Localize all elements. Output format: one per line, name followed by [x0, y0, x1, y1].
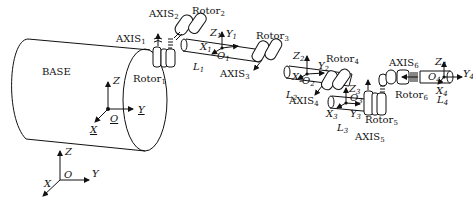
- axis-2-label: AXIS2: [148, 8, 179, 21]
- rotor-1-joint: [153, 34, 175, 67]
- frame-1-y: Y1: [226, 28, 237, 41]
- rotor-4-label: Rotor4: [326, 53, 359, 66]
- frame-4-z: Z4: [434, 56, 446, 69]
- robot-arm-diagram: BASE Z Y O X Z O Y X: [0, 0, 473, 204]
- world-frame-z: Z: [64, 146, 73, 157]
- rotor-3: [250, 37, 284, 70]
- rotor-1-label: Rotor1: [133, 73, 166, 86]
- axis-1-label: AXIS1: [115, 33, 146, 46]
- frame-2-z: Z2: [292, 50, 305, 63]
- link-1-label: L1: [192, 61, 204, 74]
- rotor-5-label: Rotor5: [365, 114, 398, 127]
- rotor-6-label: Rotor6: [395, 89, 428, 102]
- world-frame-o: O: [64, 169, 72, 180]
- rotor-5: [364, 74, 387, 115]
- frame-1-z: Z1: [209, 27, 221, 40]
- axis-5-label: AXIS5: [354, 131, 385, 144]
- base-frame-y: Y: [138, 104, 146, 115]
- base-frame-z: Z: [112, 75, 121, 86]
- frame-4-y: Y4: [463, 68, 473, 81]
- world-frame-x: X: [43, 178, 52, 189]
- base-frame-x: X: [89, 124, 98, 135]
- axis-3-label: AXIS3: [219, 68, 250, 81]
- link-3-label: L3: [336, 122, 349, 135]
- frame-3-x: X3: [325, 108, 338, 121]
- base-frame-o: O: [110, 113, 118, 124]
- axis-6-label: AXIS6: [388, 57, 419, 70]
- base-label: BASE: [42, 66, 71, 77]
- rotor-6: [386, 70, 418, 84]
- world-frame-y: Y: [92, 168, 100, 179]
